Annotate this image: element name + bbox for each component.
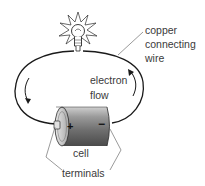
label-copper: copper [145, 24, 178, 36]
label-connecting: connecting [145, 38, 196, 50]
positive-sign: + [67, 120, 73, 132]
cell-battery: + − [54, 107, 110, 146]
circuit-diagram: + − copper connecting wire electron flow… [0, 0, 205, 186]
wire-leader-line [118, 32, 143, 55]
electron-flow-arrow-right [128, 69, 136, 96]
terminal-leader-right [110, 129, 121, 170]
label-flow: flow [90, 89, 109, 101]
negative-sign: − [98, 117, 105, 131]
electron-flow-arrow-left [25, 78, 31, 104]
label-wire: wire [144, 52, 164, 64]
label-cell: cell [73, 147, 89, 159]
label-electron: electron [90, 74, 128, 86]
light-bulb-icon [59, 12, 97, 51]
label-terminals: terminals [62, 167, 105, 179]
